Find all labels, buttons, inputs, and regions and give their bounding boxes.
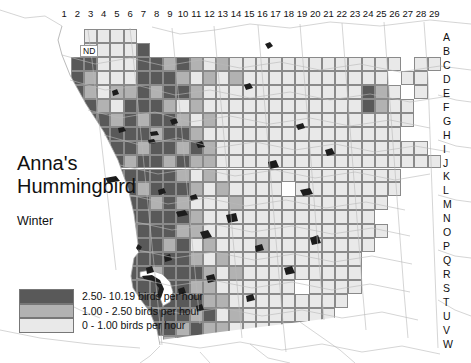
grid-cell-V13 bbox=[216, 322, 229, 336]
grid-cell-E5 bbox=[110, 85, 123, 99]
grid-cell-P23 bbox=[348, 238, 361, 252]
grid-cell-R16 bbox=[256, 266, 269, 280]
grid-cell-D11 bbox=[190, 71, 203, 85]
row-label-P: P bbox=[443, 240, 450, 252]
grid-cell-Q22 bbox=[335, 252, 348, 266]
grid-cell-P18 bbox=[282, 238, 295, 252]
grid-cell-N22 bbox=[335, 210, 348, 224]
grid-cell-C13 bbox=[216, 57, 229, 71]
grid-cell-N16 bbox=[256, 210, 269, 224]
grid-cell-L11 bbox=[190, 182, 203, 196]
grid-cell-M14 bbox=[229, 196, 242, 210]
grid-cell-G19 bbox=[295, 113, 308, 127]
column-label-17: 17 bbox=[270, 8, 281, 19]
grid-cell-T18 bbox=[282, 294, 295, 308]
grid-cell-H15 bbox=[243, 127, 256, 141]
grid-cell-N23 bbox=[348, 210, 361, 224]
grid-cell-F7 bbox=[137, 99, 150, 113]
grid-cell-L25 bbox=[375, 182, 388, 196]
grid-cell-Q17 bbox=[269, 252, 282, 266]
grid-cell-F18 bbox=[282, 99, 295, 113]
grid-cell-B5 bbox=[110, 43, 123, 57]
grid-cell-L12 bbox=[203, 182, 216, 196]
grid-cell-I20 bbox=[309, 141, 322, 155]
column-label-3: 3 bbox=[88, 8, 93, 19]
legend-row-low: 0 - 1.00 birds per hour bbox=[19, 318, 203, 333]
grid-cell-M22 bbox=[335, 196, 348, 210]
row-label-A: A bbox=[443, 31, 450, 43]
grid-cell-C29 bbox=[428, 57, 441, 71]
grid-cell-S16 bbox=[256, 280, 269, 294]
grid-cell-P10 bbox=[176, 238, 189, 252]
grid-cell-N20 bbox=[309, 210, 322, 224]
grid-cell-T14 bbox=[229, 294, 242, 308]
grid-cell-J14 bbox=[229, 155, 242, 169]
grid-cell-M23 bbox=[348, 196, 361, 210]
legend-row-high: 2.50- 10.19 birds per hour bbox=[19, 289, 203, 304]
grid-cell-C3 bbox=[84, 57, 97, 71]
grid-cell-C23 bbox=[348, 57, 361, 71]
grid-cell-D20 bbox=[309, 71, 322, 85]
row-label-G: G bbox=[443, 115, 451, 127]
grid-cell-C25 bbox=[375, 57, 388, 71]
grid-cell-E26 bbox=[388, 85, 401, 99]
grid-cell-C20 bbox=[309, 57, 322, 71]
map-legend: 2.50- 10.19 birds per hour1.00 - 2.50 bi… bbox=[19, 289, 203, 333]
grid-cell-H5 bbox=[110, 127, 123, 141]
grid-cell-C19 bbox=[295, 57, 308, 71]
grid-cell-E12 bbox=[203, 85, 216, 99]
grid-cell-I26 bbox=[388, 141, 401, 155]
column-label-16: 16 bbox=[257, 8, 268, 19]
grid-cell-E13 bbox=[216, 85, 229, 99]
grid-cell-H25 bbox=[375, 127, 388, 141]
grid-cell-C10 bbox=[176, 57, 189, 71]
grid-cell-H10 bbox=[176, 127, 189, 141]
grid-cell-U21 bbox=[322, 308, 335, 322]
grid-cell-R21 bbox=[322, 266, 335, 280]
row-label-H: H bbox=[443, 129, 451, 141]
grid-cell-P14 bbox=[229, 238, 242, 252]
grid-cell-M10 bbox=[176, 196, 189, 210]
grid-cell-U12 bbox=[203, 308, 216, 322]
grid-cell-C6 bbox=[124, 57, 137, 71]
grid-cell-P11 bbox=[190, 238, 203, 252]
row-label-Q: Q bbox=[443, 254, 451, 266]
grid-cell-V17 bbox=[269, 322, 282, 336]
grid-cell-U16 bbox=[256, 308, 269, 322]
grid-cell-I12 bbox=[203, 141, 216, 155]
grid-cell-J23 bbox=[348, 155, 361, 169]
grid-cell-U18 bbox=[282, 308, 295, 322]
row-label-E: E bbox=[443, 87, 450, 99]
grid-cell-C7 bbox=[137, 57, 150, 71]
grid-cell-I28 bbox=[414, 141, 427, 155]
grid-cell-N12 bbox=[203, 210, 216, 224]
grid-cell-K24 bbox=[362, 169, 375, 183]
grid-cell-H3 bbox=[84, 127, 97, 141]
page-title: Anna's Hummingbird bbox=[17, 152, 167, 198]
grid-cell-T20 bbox=[309, 294, 322, 308]
grid-cell-B6 bbox=[124, 43, 137, 57]
grid-cell-Q10 bbox=[176, 252, 189, 266]
grid-cell-P5 bbox=[110, 238, 123, 252]
grid-cell-A5 bbox=[110, 29, 123, 43]
grid-cell-P16 bbox=[256, 238, 269, 252]
grid-cell-C17 bbox=[269, 57, 282, 71]
grid-cell-F23 bbox=[348, 99, 361, 113]
grid-cell-G7 bbox=[137, 113, 150, 127]
grid-cell-D9 bbox=[163, 71, 176, 85]
grid-cell-J19 bbox=[295, 155, 308, 169]
grid-cell-I13 bbox=[216, 141, 229, 155]
grid-cell-O24 bbox=[362, 224, 375, 238]
grid-cell-N15 bbox=[243, 210, 256, 224]
grid-cell-K22 bbox=[335, 169, 348, 183]
column-label-13: 13 bbox=[217, 8, 228, 19]
column-label-10: 10 bbox=[178, 8, 189, 19]
grid-cell-L19 bbox=[295, 182, 308, 196]
grid-cell-W11 bbox=[190, 336, 203, 350]
grid-cell-U15 bbox=[243, 308, 256, 322]
grid-cell-Q8 bbox=[150, 252, 163, 266]
grid-cell-H18 bbox=[282, 127, 295, 141]
grid-cell-E3 bbox=[84, 85, 97, 99]
grid-cell-I16 bbox=[256, 141, 269, 155]
grid-cell-W13 bbox=[216, 336, 229, 350]
